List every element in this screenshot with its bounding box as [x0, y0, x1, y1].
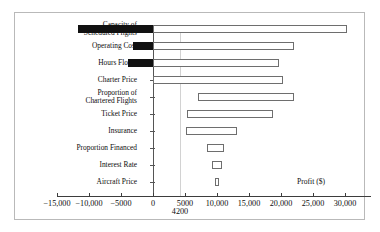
category-label-interest-rate: Interest Rate — [15, 161, 137, 169]
base-value-marker-line — [180, 25, 181, 196]
bar-negative-operating-cost — [133, 42, 153, 50]
x-axis-tick — [313, 193, 314, 197]
bar-positive-aircraft-price — [215, 178, 219, 186]
x-axis-title: Profit ($) — [297, 177, 325, 186]
zero-axis-line — [153, 25, 154, 196]
row-tick-aircraft-price — [150, 182, 155, 183]
chart-figure: Capacity of Scheduled Flights Operating … — [14, 12, 365, 220]
x-axis-tick — [153, 193, 154, 197]
bar-positive-proportion-of-chartered-flights — [198, 93, 294, 101]
bar-positive-interest-rate — [212, 161, 222, 169]
plot-area: Capacity of Scheduled Flights Operating … — [15, 13, 364, 219]
category-label-charter-price: Charter Price — [15, 76, 137, 84]
x-axis-tick — [89, 193, 90, 197]
category-label-proportion-financed: Proportion Financed — [15, 144, 137, 152]
bar-positive-charter-price — [153, 76, 283, 84]
bar-positive-proportion-financed — [207, 144, 224, 152]
x-axis-tick — [217, 193, 218, 197]
row-tick-ticket-price — [150, 114, 155, 115]
bar-negative-hours-flown — [128, 59, 153, 67]
category-label-aircraft-price: Aircraft Price — [15, 178, 137, 186]
base-value-label: 4200 — [160, 207, 200, 216]
x-axis-tick-label: 30,000 — [315, 199, 375, 208]
category-label-proportion-of-chartered-flights: Proportion of Chartered Flights — [15, 89, 137, 104]
bar-positive-insurance — [186, 127, 237, 135]
row-tick-interest-rate — [150, 165, 155, 166]
row-tick-proportion-of-chartered-flights — [150, 97, 155, 98]
category-label-insurance: Insurance — [15, 127, 137, 135]
bar-positive-hours-flown — [153, 59, 279, 67]
bar-positive-capacity-of-scheduled-flights — [153, 25, 347, 33]
category-label-hours-flown: Hours Flown — [15, 59, 137, 67]
bar-positive-operating-cost — [153, 42, 294, 50]
x-axis-line — [57, 196, 371, 197]
x-axis-tick — [121, 193, 122, 197]
x-axis-tick — [57, 193, 58, 197]
x-axis-tick — [345, 193, 346, 197]
x-axis-tick — [249, 193, 250, 197]
row-tick-insurance — [150, 131, 155, 132]
bar-positive-ticket-price — [187, 110, 273, 118]
category-label-ticket-price: Ticket Price — [15, 110, 137, 118]
row-tick-proportion-financed — [150, 148, 155, 149]
x-axis-tick — [281, 193, 282, 197]
category-label-operating-cost: Operating Cost — [15, 42, 137, 50]
bar-negative-capacity-of-scheduled-flights — [78, 25, 153, 33]
x-axis-tick — [185, 193, 186, 197]
